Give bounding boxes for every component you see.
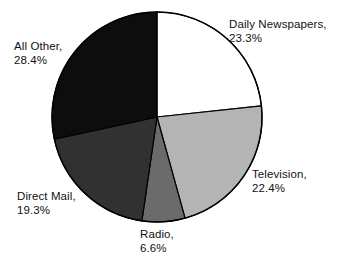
slice-label-all-other: All Other, 28.4% — [14, 39, 62, 67]
pie-slice-all-other — [52, 12, 157, 139]
slice-label-name: Direct Mail, — [17, 189, 76, 203]
slice-label-name: Television, — [252, 167, 307, 181]
slice-label-value: 22.4% — [252, 181, 307, 195]
slice-label-value: 19.3% — [17, 203, 76, 217]
slice-label-value: 23.3% — [229, 31, 327, 45]
slice-label-value: 6.6% — [140, 241, 174, 255]
pie-chart-figure: Daily Newspapers, 23.3% Television, 22.4… — [0, 0, 352, 265]
slice-label-television: Television, 22.4% — [252, 167, 307, 195]
slice-label-name: Radio, — [140, 227, 174, 241]
slice-label-value: 28.4% — [14, 53, 62, 67]
slice-label-radio: Radio, 6.6% — [140, 227, 174, 255]
slice-label-direct-mail: Direct Mail, 19.3% — [17, 189, 76, 217]
slice-label-daily-newspapers: Daily Newspapers, 23.3% — [229, 17, 327, 45]
slice-label-name: Daily Newspapers, — [229, 17, 327, 31]
slice-label-name: All Other, — [14, 39, 62, 53]
